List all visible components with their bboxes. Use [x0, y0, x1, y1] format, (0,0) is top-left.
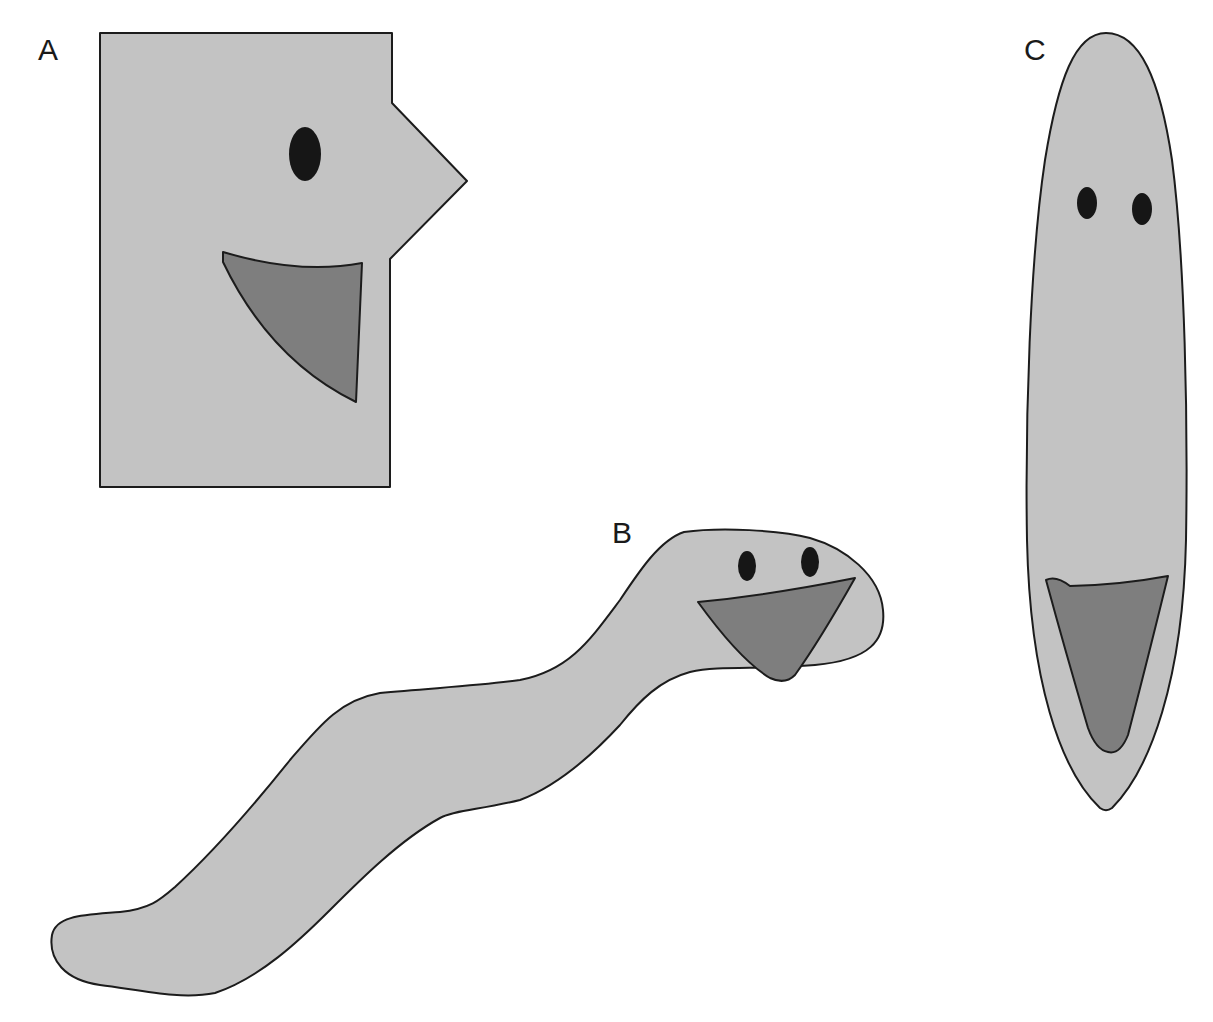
label-a: A	[38, 33, 58, 66]
figure-canvas: A B C	[0, 0, 1213, 1022]
shape-a-body	[100, 33, 467, 487]
label-b: B	[612, 516, 632, 549]
shape-c-eye-right	[1132, 193, 1152, 225]
shape-c: C	[1024, 33, 1187, 810]
shape-b-eye-right	[801, 547, 819, 577]
shape-c-eye-left	[1077, 187, 1097, 219]
shape-b: B	[51, 516, 883, 995]
shape-a: A	[38, 33, 467, 487]
shape-a-eye	[289, 127, 321, 181]
shape-b-eye-left	[738, 551, 756, 581]
label-c: C	[1024, 33, 1046, 66]
